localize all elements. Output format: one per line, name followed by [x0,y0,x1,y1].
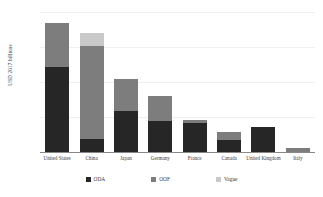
bar-group[interactable] [217,132,241,152]
bar-segment[interactable] [45,67,69,152]
bar-series-container [40,12,315,152]
y-axis-title: USD 2017 billions [7,29,13,101]
bar-segment[interactable] [148,121,172,152]
x-axis-tick-label: France [188,155,202,161]
plot-area: $0$125$250$375$500 United StatesChinaJap… [40,12,315,152]
x-axis-tick-label: China [85,155,97,161]
x-axis-tick-label: Canada [221,155,236,161]
bar-group[interactable] [286,148,310,152]
legend-item[interactable]: Vague [216,176,237,182]
bar-group[interactable] [114,79,138,152]
bar-segment[interactable] [80,46,104,140]
stacked-bar-chart: USD 2017 billions $0$125$250$375$500 Uni… [0,0,323,197]
bar-group[interactable] [45,23,69,152]
x-axis-tick-label: Japan [120,155,132,161]
x-axis-tick-label: Italy [293,155,302,161]
legend-swatch-icon [216,177,221,182]
chart-legend: ODAOOFVague [0,176,323,182]
bar-segment[interactable] [217,132,241,140]
bar-group[interactable] [80,33,104,152]
bar-segment[interactable] [45,23,69,66]
bar-segment[interactable] [80,139,104,152]
legend-item[interactable]: ODA [86,176,106,182]
bar-segment[interactable] [114,111,138,152]
bar-segment[interactable] [286,148,310,152]
bar-segment[interactable] [183,123,207,152]
x-axis-tick-label: United Kingdom [246,155,280,161]
bar-segment[interactable] [80,33,104,46]
x-axis-baseline [40,152,315,153]
bar-segment[interactable] [114,79,138,111]
x-axis-tick-label: Germany [151,155,170,161]
legend-item[interactable]: OOF [151,176,170,182]
bar-group[interactable] [251,127,275,152]
legend-label: ODA [94,176,106,182]
legend-swatch-icon [151,177,156,182]
legend-label: OOF [159,176,170,182]
legend-label: Vague [224,176,237,182]
bar-segment[interactable] [251,127,275,152]
x-axis-tick-label: United States [44,155,71,161]
bar-segment[interactable] [217,140,241,152]
bar-segment[interactable] [183,120,207,123]
bar-group[interactable] [148,96,172,152]
bar-segment[interactable] [148,96,172,121]
bar-group[interactable] [183,120,207,152]
legend-swatch-icon [86,177,91,182]
